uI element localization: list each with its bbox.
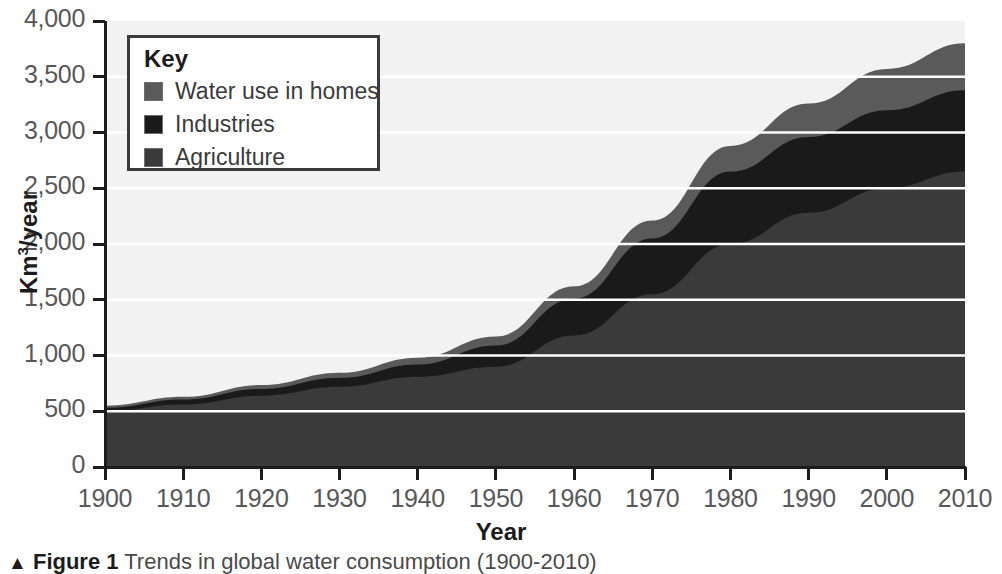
chart-legend: Key Water use in homesIndustriesAgricult…: [127, 35, 380, 171]
x-axis-line: [104, 466, 966, 469]
x-tick-2010: [964, 467, 967, 480]
legend-title: Key: [144, 46, 377, 72]
x-tick-1950: [494, 467, 497, 480]
caption-text: Trends in global water consumption (1900…: [124, 549, 596, 574]
y-tick-2000: [93, 243, 105, 246]
legend-item: Agriculture: [144, 141, 377, 174]
x-axis-title: Year: [0, 518, 1002, 546]
y-tick-4000: [93, 20, 105, 23]
y-tick-label-4000: 4,000: [5, 4, 85, 33]
x-tick-1970: [651, 467, 654, 480]
legend-swatch-icon: [144, 115, 163, 134]
x-tick-label-2010: 2010: [915, 484, 1002, 513]
figure-caption: ▲ Figure 1 Trends in global water consum…: [8, 549, 998, 574]
caption-figure-number: Figure 1: [33, 549, 119, 574]
legend-item-label: Water use in homes: [175, 80, 379, 103]
legend-item: Water use in homes: [144, 75, 377, 108]
x-tick-2000: [885, 467, 888, 480]
legend-items: Water use in homesIndustriesAgriculture: [144, 75, 377, 174]
y-tick-label-500: 500: [5, 394, 85, 423]
y-axis-title: Km3/year: [14, 153, 43, 333]
legend-item: Industries: [144, 108, 377, 141]
legend-swatch-icon: [144, 148, 163, 167]
y-tick-1500: [93, 298, 105, 301]
y-tick-1000: [93, 354, 105, 357]
y-tick-500: [93, 410, 105, 413]
legend-item-label: Industries: [175, 113, 275, 136]
legend-swatch-icon: [144, 82, 163, 101]
x-tick-1900: [104, 467, 107, 480]
y-tick-3000: [93, 131, 105, 134]
y-tick-3500: [93, 75, 105, 78]
y-tick-2500: [93, 187, 105, 190]
y-axis-title-tail: /year: [15, 191, 42, 247]
y-axis-title-main: Km: [15, 255, 42, 294]
legend-item-label: Agriculture: [175, 146, 285, 169]
x-tick-1930: [338, 467, 341, 480]
x-tick-1960: [573, 467, 576, 480]
y-tick-label-3000: 3,000: [5, 116, 85, 145]
x-tick-1920: [260, 467, 263, 480]
figure-container: 05001,0001,5002,0002,5003,0003,5004,000 …: [0, 0, 1002, 574]
y-tick-label-3500: 3,500: [5, 60, 85, 89]
x-tick-1980: [729, 467, 732, 480]
y-tick-label-0: 0: [5, 450, 85, 479]
caption-arrow-icon: ▲: [8, 552, 27, 573]
y-axis-title-exponent: 3: [14, 247, 31, 255]
x-tick-1990: [807, 467, 810, 480]
x-tick-1910: [182, 467, 185, 480]
x-tick-1940: [416, 467, 419, 480]
y-tick-label-1000: 1,000: [5, 339, 85, 368]
